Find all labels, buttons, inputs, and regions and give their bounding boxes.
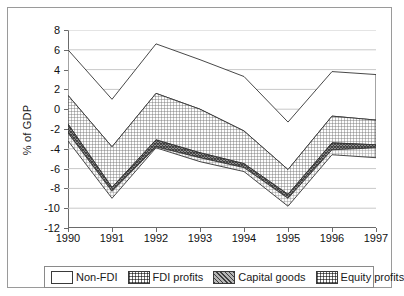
x-axis-tick-label: 1994 [221,232,267,244]
y-axis-tick-label: -4 [30,144,60,154]
y-axis-tick-mark [64,129,68,130]
y-axis-tick-label: -2 [30,124,60,134]
y-axis-tick-mark [64,50,68,51]
plot-area: 86420-2-4-6-8-10-12 19901991199219931994… [68,30,376,228]
y-axis-tick-mark [64,169,68,170]
y-axis-tick-mark [64,149,68,150]
y-axis-tick-mark [64,109,68,110]
x-axis-tick-label: 1995 [265,232,311,244]
stacked-area-series [68,30,376,228]
y-axis-tick-label: -6 [30,164,60,174]
x-axis-tick-label: 1997 [353,232,399,244]
legend-item[interactable]: Capital goods [213,271,305,284]
y-axis-tick-mark [64,89,68,90]
y-axis-tick-label: 2 [30,84,60,94]
y-axis-tick-label: -10 [30,203,60,213]
chart-frame: % of GDP [7,7,392,288]
y-axis-tick-label: 4 [30,65,60,75]
y-axis-tick-mark [64,30,68,31]
y-axis-tick-label: 8 [30,25,60,35]
legend-swatch-solid-white [51,271,73,284]
legend-swatch-light-grid [128,271,150,284]
legend-item[interactable]: FDI profits [128,271,204,284]
legend-swatch-light-grid [316,271,338,284]
legend-item-label: Equity profits [341,271,404,283]
x-axis-tick-label: 1992 [133,232,179,244]
legend-item[interactable]: Non-FDI [51,271,118,284]
legend-item-label: Capital goods [238,271,305,283]
y-axis-tick-label: 0 [30,104,60,114]
legend-item-label: FDI profits [153,271,204,283]
x-axis-tick-label: 1996 [309,232,355,244]
x-axis-tick-label: 1990 [45,232,91,244]
chart-legend: Non-FDIFDI profitsCapital goodsEquity pr… [44,266,374,288]
y-axis-tick-label: 6 [30,45,60,55]
y-axis-tick-mark [64,70,68,71]
x-axis-tick-label: 1993 [177,232,223,244]
legend-item[interactable]: Equity profits [316,271,404,284]
legend-swatch-dark-crosshatch [213,271,235,284]
y-axis-tick-mark [64,188,68,189]
x-axis-tick-label: 1991 [89,232,135,244]
legend-item-label: Non-FDI [76,271,118,283]
y-axis-tick-mark [64,208,68,209]
y-axis-tick-label: -8 [30,183,60,193]
